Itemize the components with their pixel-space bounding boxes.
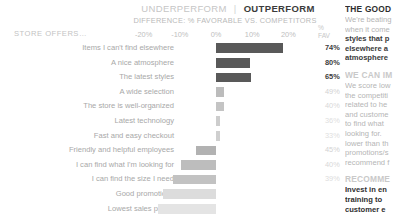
bar xyxy=(216,73,251,83)
x-tick-neg20: -20% xyxy=(135,30,152,39)
bar xyxy=(163,189,216,199)
bar xyxy=(216,58,250,68)
improve-line-5: to find what xyxy=(345,119,384,128)
bar xyxy=(173,175,216,185)
pct-favorable-value: 39% xyxy=(325,174,340,183)
bar-track xyxy=(144,70,324,85)
improve-line-6: looking for. xyxy=(345,129,382,138)
chart-row: I can find what I'm looking for40% xyxy=(0,158,393,173)
chart-row: I can find the size I need39% xyxy=(0,172,393,187)
chart-row: The latest styles65% xyxy=(0,70,393,85)
bar-track xyxy=(144,172,324,187)
pct-favorable-value: 33% xyxy=(325,131,340,140)
improve-line-1: We score low xyxy=(345,81,390,90)
pct-favorable-value: 74% xyxy=(325,43,340,52)
bar-track xyxy=(144,158,324,173)
bar-track xyxy=(144,202,324,217)
insights-panel: THE GOOD We're beating when it come styl… xyxy=(345,4,393,221)
pct-favorable-value: 65% xyxy=(325,72,340,81)
pct-favorable-value: 45% xyxy=(325,145,340,154)
chart-subtitle: DIFFERENCE: % FAVORABLE VS. COMPETITORS xyxy=(120,16,330,25)
x-tick-neg10: -10% xyxy=(171,30,188,39)
good-line-3: styles that p xyxy=(345,34,389,43)
chart-row: Latest technology36% xyxy=(0,114,393,129)
performance-header: UNDERPERFORM | OUTPERFORM xyxy=(132,2,324,15)
bar-track xyxy=(144,129,324,144)
pct-favorable-value: 80% xyxy=(325,58,340,67)
bar-track xyxy=(144,99,324,114)
x-tick-10: 10% xyxy=(245,30,260,39)
chart-row: Friendly and helpful employees45% xyxy=(0,143,393,158)
underperform-label: UNDERPERFORM xyxy=(141,3,226,14)
chart-row: A nice atmosphere80% xyxy=(0,56,393,71)
chart-row: Items I can't find elsewhere74% xyxy=(0,41,393,56)
rec-line-3: customer e xyxy=(345,205,386,214)
improve-line-7: lower than th xyxy=(345,139,388,148)
bar xyxy=(196,146,216,156)
good-line-2: when it come xyxy=(345,25,390,34)
good-line-5: atmosphere xyxy=(345,53,388,62)
good-heading: THE GOOD xyxy=(345,4,393,14)
improve-line-3: related to he xyxy=(345,100,387,109)
bar-track xyxy=(144,143,324,158)
insight-good: THE GOOD We're beating when it come styl… xyxy=(345,4,393,63)
chart-row: Fast and easy checkout33% xyxy=(0,129,393,144)
improve-line-9: recommend f xyxy=(345,158,389,167)
x-tick-20: 20% xyxy=(281,30,296,39)
rec-line-1: Invest in en xyxy=(345,185,387,194)
bar-track xyxy=(144,85,324,100)
pct-favorable-value: 40% xyxy=(325,160,340,169)
chart-row: Lowest sales prices xyxy=(0,202,393,217)
improve-body: We score low the competiti related to he… xyxy=(345,81,393,167)
good-line-4: elsewhere a xyxy=(345,44,388,53)
header-separator: | xyxy=(234,3,237,14)
bar-track xyxy=(144,56,324,71)
bar xyxy=(216,116,220,126)
bar-track xyxy=(144,114,324,129)
pct-favorable-value: 36% xyxy=(325,116,340,125)
chart-row: The store is well-organized40% xyxy=(0,99,393,114)
bar xyxy=(216,87,224,97)
bar xyxy=(181,160,216,170)
chart-row: Good promotions xyxy=(0,187,393,202)
rec-line-2: training to xyxy=(345,195,382,204)
improve-line-4: and custome xyxy=(345,110,388,119)
bar-rows-container: Items I can't find elsewhere74%A nice at… xyxy=(0,41,393,221)
outperform-label: OUTPERFORM xyxy=(244,3,315,14)
improve-heading: WE CAN IM xyxy=(345,70,393,80)
x-tick-0: 0% xyxy=(211,30,222,39)
good-body: We're beating when it come styles that p… xyxy=(345,15,393,63)
improve-line-8: promotions/s xyxy=(345,148,388,157)
pct-favorable-value: 49% xyxy=(325,87,340,96)
bar-track xyxy=(144,187,324,202)
rec-heading: RECOMME xyxy=(345,174,393,184)
bar xyxy=(216,131,220,141)
bar-track xyxy=(144,41,324,56)
chart-page: UNDERPERFORM | OUTPERFORM DIFFERENCE: % … xyxy=(0,0,393,221)
bar xyxy=(158,204,216,214)
bar xyxy=(216,102,224,112)
insight-recommendation: RECOMME Invest in en training to custome… xyxy=(345,174,393,214)
rec-body: Invest in en training to customer e xyxy=(345,185,393,214)
bar xyxy=(216,43,283,53)
insight-improve: WE CAN IM We score low the competiti rel… xyxy=(345,70,393,167)
chart-row: A wide selection49% xyxy=(0,85,393,100)
pct-favorable-value: 40% xyxy=(325,101,340,110)
improve-line-2: the competiti xyxy=(345,91,388,100)
good-line-1: We're beating xyxy=(345,15,391,24)
